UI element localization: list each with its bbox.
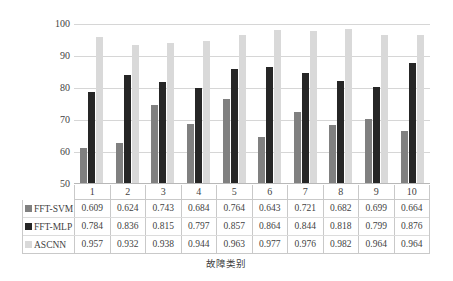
data-value-cell: 0.743 bbox=[146, 200, 182, 217]
category-label: 6 bbox=[253, 185, 289, 199]
data-value-cell: 0.609 bbox=[75, 200, 111, 217]
y-tick-label: 50 bbox=[42, 179, 70, 189]
bar-group bbox=[181, 24, 217, 183]
data-value-cell: 0.964 bbox=[359, 236, 395, 253]
legend-swatch-icon bbox=[25, 205, 32, 212]
bar-fft-svm bbox=[258, 137, 265, 183]
bar-group bbox=[394, 24, 430, 183]
bar-fft-svm bbox=[187, 124, 194, 183]
x-axis-title: 故障类别 bbox=[22, 258, 430, 270]
data-value-cell: 0.938 bbox=[146, 236, 182, 253]
data-value-cell: 0.957 bbox=[75, 236, 111, 253]
category-label: 2 bbox=[111, 185, 147, 199]
y-tick-label: 70 bbox=[42, 115, 70, 125]
data-value-cell: 0.857 bbox=[217, 218, 253, 235]
y-axis-tick-labels: 5060708090100 bbox=[40, 24, 70, 184]
bar-fft-svm bbox=[80, 148, 87, 183]
bar-ascnn bbox=[381, 35, 388, 183]
data-value-cell: 0.699 bbox=[359, 200, 395, 217]
legend-cell: FFT-MLP bbox=[23, 218, 75, 235]
data-value-cell: 0.799 bbox=[359, 218, 395, 235]
data-value-cell: 0.643 bbox=[253, 200, 289, 217]
data-value-cell: 0.836 bbox=[111, 218, 147, 235]
data-value-cell: 0.684 bbox=[182, 200, 218, 217]
data-value-cell: 0.764 bbox=[217, 200, 253, 217]
data-value-cell: 0.664 bbox=[395, 200, 430, 217]
bar-group bbox=[252, 24, 288, 183]
bar-group bbox=[110, 24, 146, 183]
plot-area bbox=[74, 24, 430, 184]
legend-series-label: FFT-MLP bbox=[34, 222, 72, 232]
bar-fft-mlp bbox=[302, 73, 309, 183]
bar-group bbox=[216, 24, 252, 183]
data-value-cell: 0.624 bbox=[111, 200, 147, 217]
table-row: FFT-MLP0.7840.8360.8150.7970.8570.8640.8… bbox=[23, 218, 429, 236]
data-value-cell: 0.963 bbox=[217, 236, 253, 253]
category-label: 4 bbox=[182, 185, 218, 199]
data-value-cell: 0.944 bbox=[182, 236, 218, 253]
bar-ascnn bbox=[345, 29, 352, 183]
data-value-cell: 0.864 bbox=[253, 218, 289, 235]
bar-fft-svm bbox=[294, 112, 301, 183]
bar-fft-mlp bbox=[231, 69, 238, 183]
bar-fft-svm bbox=[116, 143, 123, 183]
legend-swatch-icon bbox=[25, 223, 32, 230]
legend-series-label: ASCNN bbox=[34, 240, 66, 250]
data-value-cell: 0.876 bbox=[395, 218, 430, 235]
bar-fft-svm bbox=[223, 99, 230, 183]
bar-ascnn bbox=[417, 35, 424, 183]
category-label: 10 bbox=[395, 185, 430, 199]
data-value-cell: 0.784 bbox=[75, 218, 111, 235]
bar-ascnn bbox=[96, 37, 103, 183]
data-value-cell: 0.977 bbox=[253, 236, 289, 253]
bar-group bbox=[359, 24, 395, 183]
bar-group bbox=[288, 24, 324, 183]
bar-ascnn bbox=[274, 30, 281, 183]
data-value-cell: 0.982 bbox=[324, 236, 360, 253]
data-value-cell: 0.797 bbox=[182, 218, 218, 235]
legend-cell: FFT-SVM bbox=[23, 200, 75, 217]
category-label: 7 bbox=[288, 185, 324, 199]
bar-group bbox=[145, 24, 181, 183]
bar-ascnn bbox=[310, 31, 317, 183]
data-value-cell: 0.682 bbox=[324, 200, 360, 217]
y-tick-label: 100 bbox=[42, 19, 70, 29]
data-value-cell: 0.964 bbox=[395, 236, 430, 253]
bar-fft-svm bbox=[329, 125, 336, 183]
legend-cell: ASCNN bbox=[23, 236, 75, 253]
table-row: ASCNN0.9570.9320.9380.9440.9630.9770.976… bbox=[23, 236, 429, 253]
bar-fft-mlp bbox=[373, 87, 380, 183]
bar-chart-figure: 故障识别准确率/% 5060708090100 12345678910 FFT-… bbox=[0, 0, 453, 281]
category-label: 3 bbox=[146, 185, 182, 199]
bar-fft-mlp bbox=[88, 92, 95, 183]
data-value-cell: 0.976 bbox=[288, 236, 324, 253]
legend-series-label: FFT-SVM bbox=[34, 204, 73, 214]
x-axis-category-row: 12345678910 bbox=[74, 185, 430, 200]
bar-ascnn bbox=[132, 45, 139, 183]
bar-group bbox=[74, 24, 110, 183]
category-label: 1 bbox=[75, 185, 111, 199]
y-tick-label: 90 bbox=[42, 51, 70, 61]
data-value-cell: 0.815 bbox=[146, 218, 182, 235]
bar-fft-svm bbox=[401, 131, 408, 183]
bar-fft-mlp bbox=[159, 82, 166, 183]
bar-ascnn bbox=[167, 43, 174, 183]
data-value-cell: 0.932 bbox=[111, 236, 147, 253]
bar-group bbox=[323, 24, 359, 183]
data-value-cell: 0.721 bbox=[288, 200, 324, 217]
bar-fft-svm bbox=[151, 105, 158, 183]
y-tick-label: 80 bbox=[42, 83, 70, 93]
bar-ascnn bbox=[203, 41, 210, 183]
table-row: FFT-SVM0.6090.6240.7430.6840.7640.6430.7… bbox=[23, 200, 429, 218]
category-label: 5 bbox=[217, 185, 253, 199]
bar-fft-mlp bbox=[337, 81, 344, 183]
category-label: 9 bbox=[359, 185, 395, 199]
legend-swatch-icon bbox=[25, 241, 32, 248]
bar-fft-mlp bbox=[195, 88, 202, 183]
data-value-cell: 0.844 bbox=[288, 218, 324, 235]
bar-fft-mlp bbox=[124, 75, 131, 183]
bar-fft-mlp bbox=[409, 63, 416, 183]
bar-ascnn bbox=[239, 35, 246, 183]
y-tick-label: 60 bbox=[42, 147, 70, 157]
bar-fft-svm bbox=[365, 119, 372, 183]
